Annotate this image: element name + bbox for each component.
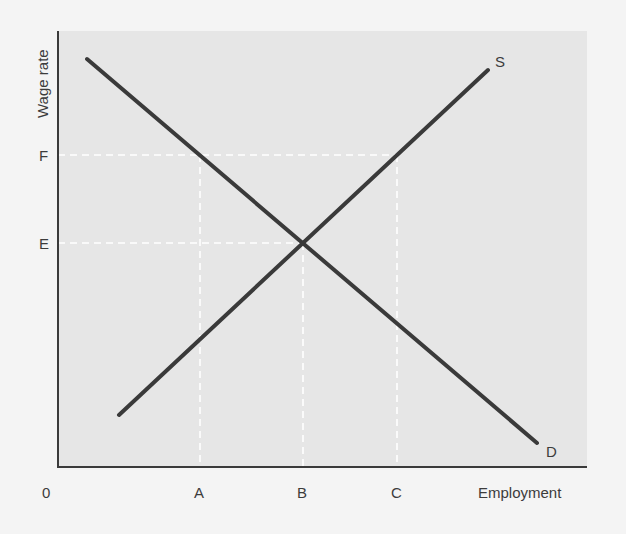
origin-label: 0 — [42, 485, 50, 500]
x-tick-c: C — [391, 485, 402, 500]
x-tick-b: B — [297, 485, 307, 500]
demand-curve-label: D — [546, 444, 557, 459]
y-tick-f: F — [39, 148, 48, 163]
y-tick-e: E — [39, 236, 49, 251]
plot-area — [58, 31, 587, 467]
supply-curve-label: S — [495, 54, 505, 69]
supply-demand-diagram — [0, 0, 626, 534]
y-axis-label: Wage rate — [34, 49, 51, 118]
x-axis-label: Employment — [478, 485, 561, 500]
x-tick-a: A — [194, 485, 204, 500]
